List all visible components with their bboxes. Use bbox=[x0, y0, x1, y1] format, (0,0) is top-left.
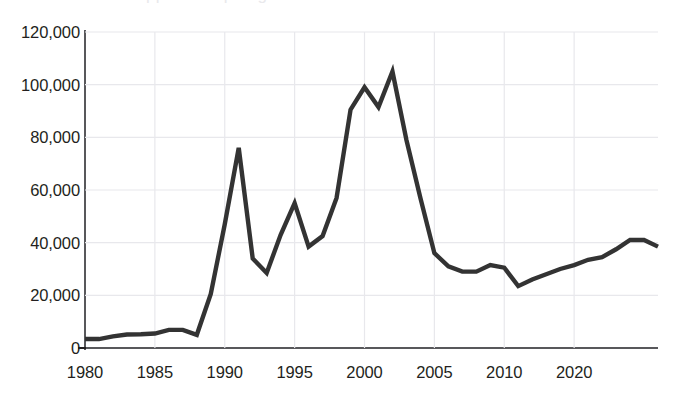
x-axis-tick-label: 2005 bbox=[416, 363, 452, 382]
x-axis-tick-label: 2020 bbox=[556, 363, 592, 382]
x-axis-tick-label: 1995 bbox=[276, 363, 312, 382]
x-axis-tick-label: 1980 bbox=[67, 363, 103, 382]
x-axis-tick-label: 2010 bbox=[486, 363, 522, 382]
horizontal-gridlines bbox=[85, 32, 658, 295]
plot-svg bbox=[85, 32, 658, 348]
plot-area bbox=[85, 32, 658, 348]
line-chart: Chart title cropped at top edge 120,0001… bbox=[0, 0, 683, 410]
data-series-line bbox=[85, 72, 658, 340]
x-axis-tick-label: 1985 bbox=[137, 363, 173, 382]
x-axis-tick-label: 2000 bbox=[346, 363, 382, 382]
x-axis-tick-label: 1990 bbox=[207, 363, 243, 382]
